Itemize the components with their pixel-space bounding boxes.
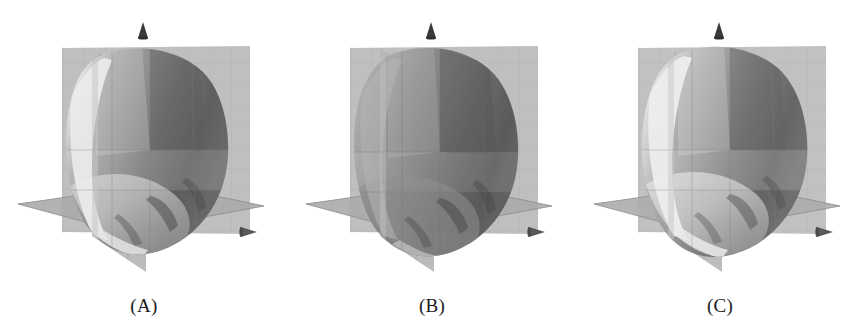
scene-a [0,0,288,300]
figure-three-panel-3d-isosurfaces: (A) [0,0,865,336]
side-plane-front-edge [668,48,674,240]
panel-label-a: (A) [0,295,288,317]
up-cone-icon [714,22,724,40]
panel-b: (B) [288,0,576,336]
scene-c [576,0,864,300]
side-plane-front-edge [380,48,386,240]
panel-label-b: (B) [288,295,576,317]
side-plane-front-edge [92,48,98,240]
up-cone-icon [426,22,436,40]
panel-a: (A) [0,0,288,336]
panel-label-c: (C) [576,295,864,317]
panel-c: (C) [576,0,864,336]
up-cone-icon [138,22,148,40]
scene-b [288,0,576,300]
